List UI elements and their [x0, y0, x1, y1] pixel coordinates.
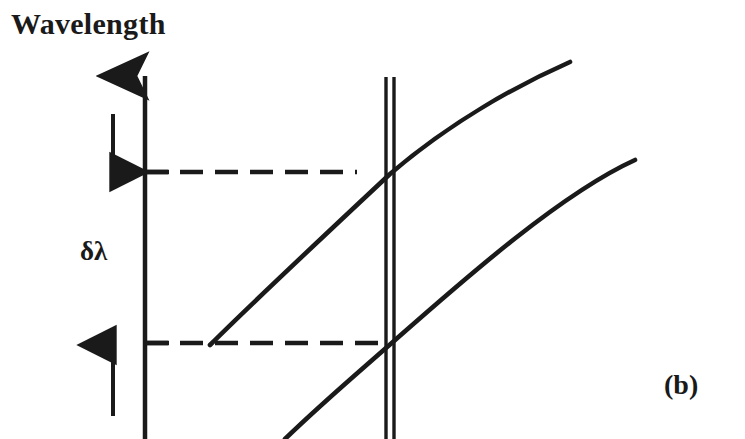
lower-dispersion-curve [285, 160, 635, 439]
upper-dispersion-curve [210, 62, 570, 345]
delta-lambda-label: δλ [80, 238, 107, 265]
figure-graphic [0, 0, 745, 439]
page-title: Wavelength [11, 9, 166, 39]
figure-panel-b: Wavelength δλ (b) [0, 0, 745, 439]
panel-label: (b) [664, 371, 698, 399]
